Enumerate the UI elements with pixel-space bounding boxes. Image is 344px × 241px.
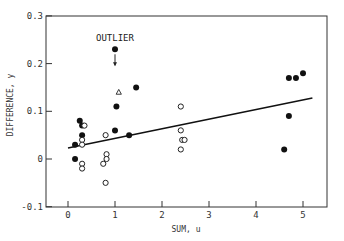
filled-point — [286, 75, 292, 81]
filled-point — [72, 156, 78, 162]
open-point — [103, 133, 108, 138]
x-axis-ticks: 012345 — [65, 201, 305, 220]
open-point — [178, 147, 183, 152]
x-tick-label: 4 — [253, 210, 258, 220]
scatter-chart: 012345 -0.100.10.20.3 SUM, u DIFFERENCE,… — [0, 0, 344, 241]
y-tick-label: -0.1 — [21, 202, 43, 212]
y-axis-ticks: -0.100.10.20.3 — [21, 11, 52, 212]
y-tick-label: 0 — [38, 154, 43, 164]
open-point — [178, 128, 183, 133]
x-tick-label: 5 — [300, 210, 305, 220]
arrow-down-icon — [113, 62, 117, 66]
filled-point — [300, 70, 306, 76]
y-tick-label: 0.2 — [27, 59, 43, 69]
filled-point — [112, 127, 118, 133]
x-tick-label: 3 — [206, 210, 211, 220]
regression-line — [68, 98, 312, 148]
y-tick-label: 0.1 — [27, 106, 43, 116]
data-points — [72, 46, 306, 185]
x-tick-label: 1 — [112, 210, 117, 220]
x-tick-label: 0 — [65, 210, 70, 220]
filled-point — [72, 142, 78, 148]
open-point — [178, 104, 183, 109]
filled-point — [281, 146, 287, 152]
triangle-point — [116, 89, 121, 94]
x-tick-label: 2 — [159, 210, 164, 220]
open-point — [80, 142, 85, 147]
filled-point — [112, 46, 118, 52]
filled-point — [113, 104, 119, 110]
filled-point — [286, 113, 292, 119]
outlier-label: OUTLIER — [96, 33, 135, 43]
y-axis-label: DIFFERENCE, y — [6, 74, 15, 137]
open-point — [103, 180, 108, 185]
open-point — [101, 161, 106, 166]
filled-point — [293, 75, 299, 81]
open-point — [82, 123, 87, 128]
filled-point — [126, 132, 132, 138]
open-point — [80, 166, 85, 171]
plot-frame — [46, 16, 327, 207]
y-tick-label: 0.3 — [27, 11, 43, 21]
filled-point — [133, 84, 139, 90]
open-point — [182, 137, 187, 142]
open-point — [104, 156, 109, 161]
x-axis-label: SUM, u — [172, 225, 201, 234]
